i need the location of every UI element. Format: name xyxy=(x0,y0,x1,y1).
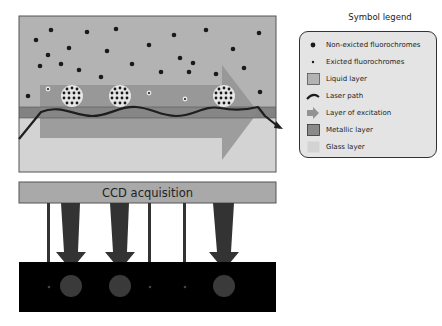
legend-item-metallic: Metallic layer xyxy=(306,124,373,136)
arrow-right-icon xyxy=(306,107,320,119)
legend-item-liquid: Liquid layer xyxy=(306,73,367,85)
metallic-swatch-icon xyxy=(306,124,320,136)
legend-item-non-excited: Non-exicted fluorochromes xyxy=(306,39,421,51)
tirf-diagram xyxy=(0,0,300,326)
laser-curve-icon xyxy=(306,90,320,102)
legend-item-laser: Laser path xyxy=(306,90,363,102)
ccd-acquisition-label: CCD acquisition xyxy=(19,182,276,203)
legend-item-glass: Glass layer xyxy=(306,141,365,153)
large-dot-icon xyxy=(306,39,320,51)
symbol-legend: Non-exicted fluorochromes Exicted fluoro… xyxy=(299,31,437,158)
liquid-swatch-icon xyxy=(306,73,320,85)
small-dot-icon xyxy=(306,56,320,68)
legend-item-excited: Exicted fluorochromes xyxy=(306,56,404,68)
legend-title: Symbol legend xyxy=(330,12,430,22)
legend-item-excitation: Layer of excitation xyxy=(306,107,391,119)
glass-swatch-icon xyxy=(306,141,320,153)
detector-panel xyxy=(19,262,276,312)
emission-arrows xyxy=(56,203,239,270)
